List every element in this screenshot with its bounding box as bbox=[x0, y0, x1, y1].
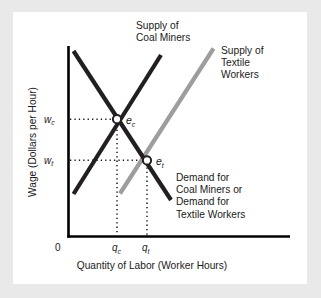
equilibrium-coal-sub: c bbox=[132, 121, 136, 128]
equilibrium-point-textile bbox=[143, 156, 151, 164]
demand-annotation-line-2: Coal Miners or bbox=[176, 184, 243, 195]
supply-textile-annotation-line-2: Textile bbox=[221, 57, 250, 68]
supply-textile-annotation-line-3: Workers bbox=[221, 69, 259, 80]
wage-coal-sub: c bbox=[51, 119, 55, 126]
demand-annotation-line-3: Demand for bbox=[176, 196, 230, 207]
supply-coal-annotation-line-1: Supply of bbox=[136, 20, 179, 31]
supply-textile-annotation: Supply of Textile Workers bbox=[221, 45, 266, 80]
supply-coal-annotation-line-2: Coal Miners bbox=[136, 32, 190, 43]
demand-annotation-line-1: Demand for bbox=[176, 172, 230, 183]
x-tick-label-qty-coal: qc bbox=[112, 242, 122, 255]
supply-coal-annotation: Supply of Coal Miners bbox=[136, 20, 190, 43]
equilibrium-point-coal bbox=[113, 115, 121, 123]
demand-annotation-line-4: Textile Workers bbox=[176, 209, 245, 220]
equilibrium-textile-sub: t bbox=[162, 162, 165, 169]
qty-coal-sub: c bbox=[118, 248, 122, 255]
annotations-group: Supply of Coal Miners Supply of Textile … bbox=[136, 20, 266, 220]
qty-textile-sub: t bbox=[148, 248, 151, 255]
y-axis-title: Wage (Dollars per Hour) bbox=[27, 87, 38, 197]
labor-market-supply-demand-chart: ec et wc wt qc qt 0 bbox=[0, 0, 321, 298]
equilibrium-coal-label: ec bbox=[126, 114, 136, 128]
figure-root: ec et wc wt qc qt 0 bbox=[0, 0, 321, 298]
demand-annotation: Demand for Coal Miners or Demand for Tex… bbox=[176, 172, 245, 220]
demand-curve bbox=[74, 51, 172, 200]
y-tick-label-wage-coal: wc bbox=[44, 114, 55, 127]
wage-textile-sub: t bbox=[51, 160, 54, 167]
supply-textile-annotation-line-1: Supply of bbox=[221, 45, 264, 56]
equilibrium-textile-label: et bbox=[156, 155, 165, 169]
x-axis-title: Quantity of Labor (Worker Hours) bbox=[77, 260, 227, 271]
tick-labels-group: wc wt qc qt 0 bbox=[44, 114, 151, 255]
supply-coal-curve bbox=[74, 55, 162, 194]
origin-label: 0 bbox=[55, 242, 61, 253]
y-tick-label-wage-textile: wt bbox=[44, 155, 54, 168]
x-tick-label-qty-textile: qt bbox=[142, 242, 151, 255]
